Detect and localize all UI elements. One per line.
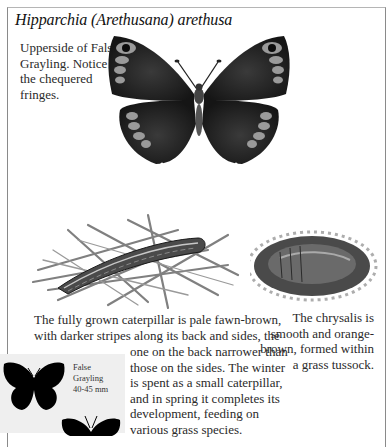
butterfly-silhouette-male-icon: [60, 414, 122, 436]
butterfly-illustration-icon: [106, 28, 292, 170]
scale-label: False Grayling 40-45 mm: [73, 362, 123, 395]
scale-name-line2: Grayling: [73, 373, 123, 384]
scale-size: 40-45 mm: [73, 384, 123, 395]
size-scale-box: False Grayling 40-45 mm: [0, 354, 125, 433]
caterpillar-illustration-icon: [28, 210, 243, 310]
species-title: Hipparchia (Arethusana) arethusa: [15, 11, 232, 29]
chrysalis-illustration-icon: [250, 230, 380, 302]
chrysalis-caption: The chrysalis is smooth and orange-brown…: [254, 310, 374, 372]
scale-name-line1: False: [73, 362, 123, 373]
butterfly-silhouette-female-icon: [2, 360, 68, 412]
